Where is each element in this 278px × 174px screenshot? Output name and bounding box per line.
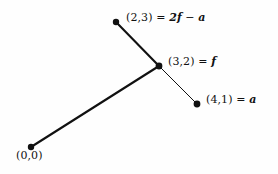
label-coefficient-2: 2	[169, 11, 177, 24]
label-equals-sign-right: =	[236, 93, 245, 106]
segment-f-to-2f-minus-a	[116, 22, 159, 66]
label-coords-0-0: (0,0)	[16, 149, 43, 162]
label-var-a: a	[249, 93, 256, 106]
label-coords-3-2: (3,2)	[168, 55, 195, 68]
label-coords-4-1: (4,1)	[206, 93, 233, 106]
label-equals-sign-mid: =	[198, 55, 207, 68]
point-dot-a	[194, 101, 201, 108]
point-label-origin: (0,0)	[16, 150, 43, 161]
label-var-f: f	[211, 55, 216, 68]
vector-diagram-canvas: (2,3) = 2f − a (3,2) = f (4,1) = a (0,0)	[0, 0, 278, 174]
point-label-a: (4,1) = a	[206, 94, 256, 105]
segment-f-to-a	[159, 66, 197, 104]
point-label-2f-minus-a: (2,3) = 2f − a	[126, 12, 206, 23]
label-equals-sign-top: =	[156, 11, 165, 24]
label-coords-2-3: (2,3)	[126, 11, 153, 24]
vector-graphics	[0, 0, 278, 174]
point-dot-f	[156, 63, 163, 70]
point-dot-2f-minus-a	[113, 19, 119, 25]
segment-origin-to-f	[31, 66, 159, 147]
label-var-a-top: a	[198, 11, 205, 24]
label-operator-minus: −	[185, 11, 194, 24]
point-label-f: (3,2) = f	[168, 56, 216, 67]
